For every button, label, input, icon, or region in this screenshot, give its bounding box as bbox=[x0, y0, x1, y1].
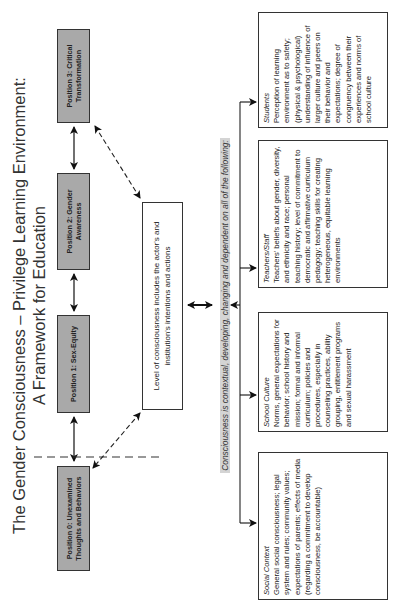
factor-body: Teachers' beliefs about gender, diversit… bbox=[272, 147, 342, 283]
dashed-arrow-level-p3 bbox=[95, 126, 140, 198]
factor-heading: School Culture bbox=[262, 317, 272, 427]
context-statement-text: Consciousness is contextual, developing,… bbox=[220, 138, 230, 473]
factor-box-social-context: Social Context General social consciousn… bbox=[258, 452, 388, 600]
position-0-label: Position 0: Unexamined Thoughts and Beha… bbox=[65, 467, 83, 570]
level-of-consciousness-text: Level of consciousness includes the acto… bbox=[152, 203, 173, 409]
position-1-label: Position 1: Sex-Equity bbox=[69, 326, 78, 402]
factor-heading: Social Context bbox=[262, 457, 272, 595]
position-3-label: Position 3: Critical Transformation bbox=[65, 30, 83, 122]
factor-box-teachers-staff: Teachers/Staff Teachers' beliefs about g… bbox=[258, 140, 388, 288]
factor-body: Perception of learning environment as to… bbox=[272, 25, 373, 123]
position-2-box: Position 2: Gender Awareness bbox=[57, 173, 90, 270]
factor-box-school-culture: School Culture Norms, general expectatio… bbox=[258, 312, 388, 432]
position-0-box: Position 0: Unexamined Thoughts and Beha… bbox=[57, 466, 90, 571]
factor-body: General social consciousness; legal syst… bbox=[272, 459, 322, 595]
context-statement: Consciousness is contextual, developing,… bbox=[219, 48, 231, 563]
level-of-consciousness-box: Level of consciousness includes the acto… bbox=[142, 202, 183, 410]
diagram-page: The Gender Consciousness – Privilege Lea… bbox=[0, 0, 399, 611]
position-1-box: Position 1: Sex-Equity bbox=[57, 315, 90, 413]
dashed-arrow-level-p0 bbox=[93, 413, 140, 468]
position-2-label: Position 2: Gender Awareness bbox=[65, 174, 83, 269]
factor-heading: Students bbox=[262, 17, 272, 123]
factor-body: Norms, general expectations for behavior… bbox=[272, 319, 352, 427]
factor-box-students: Students Perception of learning environm… bbox=[258, 12, 388, 128]
factor-heading: Teachers/Staff bbox=[262, 145, 272, 283]
position-3-box: Position 3: Critical Transformation bbox=[57, 29, 90, 123]
